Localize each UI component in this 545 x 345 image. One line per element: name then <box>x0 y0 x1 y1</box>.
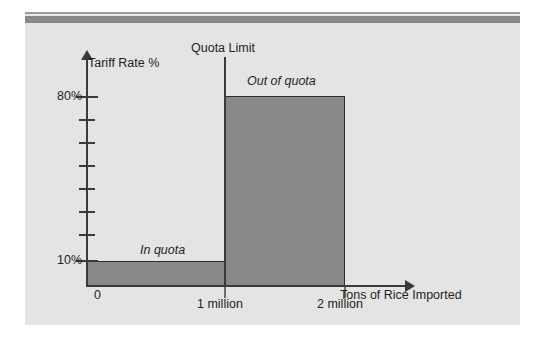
bar-in-quota <box>86 261 226 286</box>
y-tick-minor-1 <box>79 119 95 121</box>
chart-screenshot: Tariff Rate % Quota Limit Tons of Rice I… <box>0 0 545 345</box>
y-tick-label-10: 10% <box>57 253 82 267</box>
top-rule-thick <box>25 16 520 23</box>
quota-limit-label: Quota Limit <box>191 41 255 55</box>
bar-out-of-quota <box>224 96 345 286</box>
y-tick-label-80: 80% <box>57 89 82 103</box>
x-tick-label-1-million: 1 million <box>197 297 243 311</box>
in-quota-label: In quota <box>140 243 185 257</box>
x-tick-label-2-million: 2 million <box>317 297 363 311</box>
out-of-quota-label: Out of quota <box>247 74 316 88</box>
y-axis-line <box>86 57 88 286</box>
y-tick-minor-4 <box>79 188 95 190</box>
y-tick-minor-6 <box>79 234 95 236</box>
y-tick-minor-5 <box>79 211 95 213</box>
y-tick-minor-3 <box>79 165 95 167</box>
x-axis-line <box>86 285 408 287</box>
x-tick-label-origin: 0 <box>94 288 101 302</box>
y-axis-title: Tariff Rate % <box>88 56 159 70</box>
y-tick-minor-2 <box>79 142 95 144</box>
quota-limit-line <box>224 57 226 298</box>
